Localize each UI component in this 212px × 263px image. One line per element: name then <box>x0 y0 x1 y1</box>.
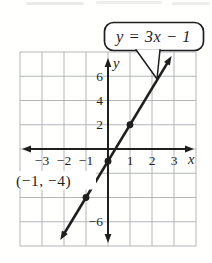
y-tick-label: 6 <box>96 69 103 84</box>
x-tick-label: −2 <box>57 153 71 168</box>
x-axis-arrowhead <box>22 146 31 153</box>
y-tick-label: 4 <box>96 93 103 108</box>
x-tick-label: 1 <box>127 153 134 168</box>
scan-artifact <box>26 1 210 5</box>
y-tick-label: 2 <box>96 117 103 132</box>
point-annotation-text: (−1, −4) <box>16 172 71 190</box>
point-annotation: (−1, −4) <box>14 171 96 190</box>
equation-callout-text: y = 3x − 1 <box>114 27 191 46</box>
y-axis-arrowhead <box>105 234 112 243</box>
axes <box>22 58 194 243</box>
x-tick-label: −1 <box>79 153 93 168</box>
line-y-equals-3x-minus-1-arrowhead <box>164 56 172 65</box>
y-axis-label: y <box>111 55 120 71</box>
equation-callout-pointer <box>136 50 160 79</box>
marked-point <box>105 158 112 165</box>
x-axis-label: x <box>187 151 195 167</box>
coordinate-plane: −3−2−1123642−6 x y (−1, −4) y = 3x − 1 <box>0 0 212 263</box>
x-tick-label: −3 <box>35 153 50 168</box>
y-axis-arrowhead <box>105 58 112 67</box>
graph-figure: −3−2−1123642−6 x y (−1, −4) y = 3x − 1 <box>0 0 212 263</box>
x-tick-label: 2 <box>149 153 156 168</box>
y-tick-label: −6 <box>89 214 104 229</box>
marked-point <box>83 194 90 201</box>
marked-point <box>127 121 134 128</box>
x-tick-label: 3 <box>171 153 178 168</box>
